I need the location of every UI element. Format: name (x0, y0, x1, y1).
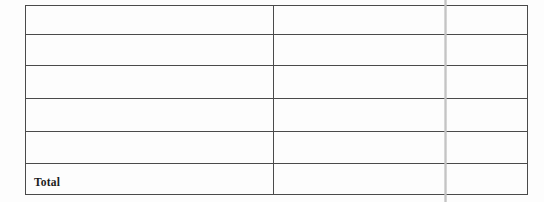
cell-label-text (26, 28, 273, 34)
table-body: Total (26, 6, 528, 195)
table-cell-label[interactable] (26, 35, 274, 66)
table-row (26, 132, 528, 164)
cell-label-text (26, 125, 273, 131)
ruled-table: Total (25, 5, 528, 195)
table-row (26, 35, 528, 66)
table-cell-label[interactable] (26, 132, 274, 164)
cell-value-text (274, 125, 527, 131)
table-cell-label[interactable] (26, 66, 274, 99)
table-row (26, 66, 528, 99)
cell-value-text (274, 28, 527, 34)
table-cell-label[interactable] (26, 99, 274, 132)
table-row (26, 6, 528, 35)
table-cell-value[interactable] (274, 66, 528, 99)
table-cell-value[interactable] (274, 35, 528, 66)
table-cell-value[interactable] (274, 99, 528, 132)
table-row (26, 99, 528, 132)
total-value-text (274, 188, 527, 194)
table-cell-total-label[interactable]: Total (26, 164, 274, 195)
table-cell-label[interactable] (26, 6, 274, 35)
cell-value-text (274, 157, 527, 163)
cell-label-text (26, 59, 273, 65)
cell-value-text (274, 92, 527, 98)
cell-value-text (274, 59, 527, 65)
document-page: Total (0, 0, 544, 202)
table-row-total: Total (26, 164, 528, 195)
table-cell-total-value[interactable] (274, 164, 528, 195)
table-cell-value[interactable] (274, 6, 528, 35)
cell-label-text (26, 157, 273, 163)
total-label-text: Total (26, 176, 273, 194)
table-cell-value[interactable] (274, 132, 528, 164)
cell-label-text (26, 92, 273, 98)
